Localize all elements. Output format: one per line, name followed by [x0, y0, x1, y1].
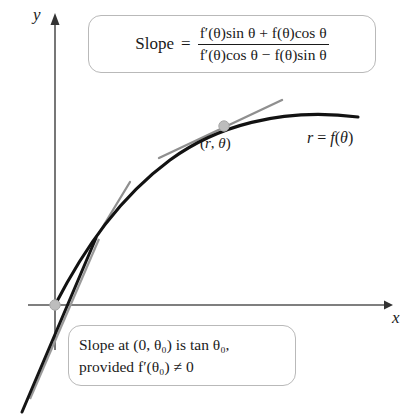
slope-formula-row: Slope = f′(θ)sin θ + f(θ)cos θ f′(θ)cos … [135, 24, 328, 64]
note-line-2: provided f′(θ₀) ≠ 0 [79, 356, 230, 377]
origin-slope-note-text: Slope at (0, θ₀) is tan θ₀, provided f′(… [79, 334, 230, 377]
polar-slope-figure: y x r = f(θ) (r, θ) Slope = f′(θ)sin θ +… [0, 0, 413, 415]
point-coordinate-label: (r, θ) [200, 136, 231, 151]
origin-slope-note-callout: Slope at (0, θ₀) is tan θ₀, provided f′(… [68, 325, 296, 386]
slope-formula-lhs: Slope [135, 34, 174, 54]
note-line-1: Slope at (0, θ₀) is tan θ₀, [79, 334, 230, 355]
fraction-bar [198, 44, 329, 45]
y-axis-arrowhead [51, 13, 60, 25]
slope-formula-denominator: f′(θ)cos θ − f(θ)sin θ [198, 46, 329, 64]
slope-formula-equals: = [181, 34, 191, 54]
x-axis-label: x [392, 309, 400, 326]
point-marker-r-theta [219, 121, 229, 131]
curve-equation-label: r = f(θ) [307, 130, 353, 146]
slope-formula-callout: Slope = f′(θ)sin θ + f(θ)cos θ f′(θ)cos … [88, 15, 376, 73]
slope-formula-fraction: f′(θ)sin θ + f(θ)cos θ f′(θ)cos θ − f(θ)… [198, 24, 329, 64]
point-marker-origin [50, 300, 60, 310]
y-axis-label: y [33, 6, 41, 23]
slope-formula-numerator: f′(θ)sin θ + f(θ)cos θ [198, 24, 329, 42]
